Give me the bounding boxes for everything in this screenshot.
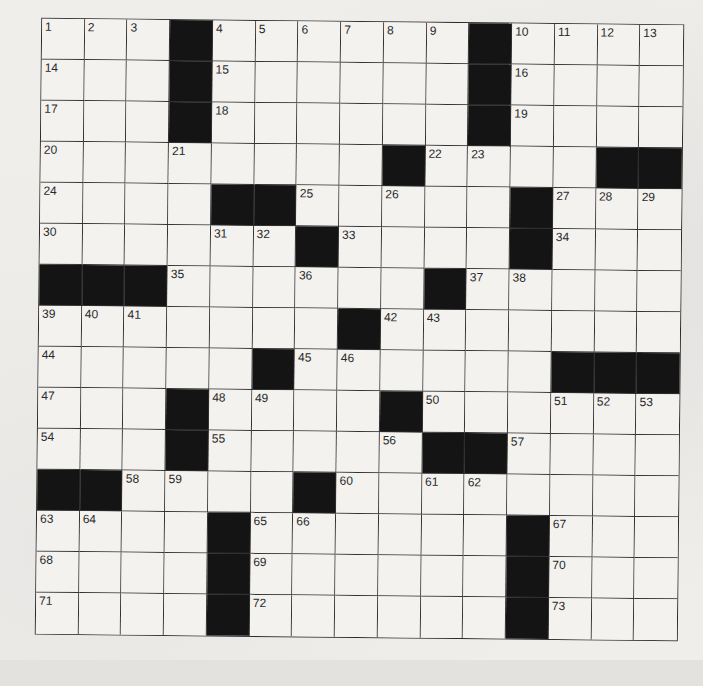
grid-cell[interactable] [83, 142, 126, 183]
grid-cell[interactable]: 22 [425, 146, 468, 187]
grid-cell[interactable] [509, 311, 552, 352]
grid-cell[interactable]: 64 [79, 511, 122, 552]
grid-cell[interactable] [640, 66, 683, 107]
grid-cell[interactable] [592, 557, 635, 598]
grid-cell[interactable] [211, 143, 254, 184]
grid-cell[interactable]: 20 [41, 142, 84, 183]
grid-cell[interactable] [123, 430, 166, 471]
grid-cell[interactable]: 63 [37, 511, 80, 552]
grid-cell[interactable] [79, 593, 122, 634]
grid-cell[interactable] [338, 268, 381, 309]
grid-cell[interactable]: 2 [85, 19, 128, 60]
grid-cell[interactable]: 59 [165, 471, 208, 512]
grid-cell[interactable] [593, 434, 636, 475]
grid-cell[interactable] [255, 62, 298, 103]
grid-cell[interactable]: 40 [82, 306, 125, 347]
grid-cell[interactable]: 61 [422, 474, 465, 515]
grid-cell[interactable]: 33 [339, 227, 382, 268]
grid-cell[interactable]: 15 [212, 61, 255, 102]
grid-cell[interactable]: 14 [41, 60, 84, 101]
grid-cell[interactable]: 55 [208, 430, 251, 471]
grid-cell[interactable]: 70 [549, 557, 592, 598]
grid-cell[interactable] [164, 594, 207, 635]
grid-cell[interactable]: 10 [512, 24, 555, 65]
grid-cell[interactable] [254, 144, 297, 185]
grid-cell[interactable] [294, 390, 337, 431]
grid-cell[interactable] [378, 555, 421, 596]
grid-cell[interactable] [550, 475, 593, 516]
grid-cell[interactable]: 19 [511, 106, 554, 147]
grid-cell[interactable]: 23 [468, 146, 511, 187]
grid-cell[interactable] [125, 225, 168, 266]
grid-cell[interactable] [381, 268, 424, 309]
grid-cell[interactable] [122, 512, 165, 553]
grid-cell[interactable] [293, 554, 336, 595]
grid-cell[interactable] [208, 471, 251, 512]
grid-cell[interactable] [466, 310, 509, 351]
grid-cell[interactable] [464, 515, 507, 556]
grid-cell[interactable] [379, 473, 422, 514]
grid-cell[interactable] [122, 553, 165, 594]
grid-cell[interactable] [209, 348, 252, 389]
grid-cell[interactable]: 27 [553, 188, 596, 229]
grid-cell[interactable]: 24 [40, 183, 83, 224]
grid-cell[interactable] [383, 104, 426, 145]
grid-cell[interactable] [596, 106, 639, 147]
grid-cell[interactable]: 36 [296, 267, 339, 308]
grid-cell[interactable] [421, 556, 464, 597]
grid-cell[interactable]: 18 [212, 102, 255, 143]
grid-cell[interactable] [126, 184, 169, 225]
grid-cell[interactable] [426, 64, 469, 105]
grid-cell[interactable] [297, 144, 340, 185]
grid-cell[interactable] [423, 351, 466, 392]
grid-cell[interactable]: 49 [252, 390, 295, 431]
grid-cell[interactable]: 29 [638, 189, 681, 230]
grid-cell[interactable] [210, 307, 253, 348]
grid-cell[interactable] [465, 392, 508, 433]
grid-cell[interactable]: 16 [511, 65, 554, 106]
grid-cell[interactable] [508, 352, 551, 393]
grid-cell[interactable]: 58 [123, 471, 166, 512]
grid-cell[interactable]: 51 [551, 393, 594, 434]
grid-cell[interactable] [340, 63, 383, 104]
grid-cell[interactable] [383, 63, 426, 104]
grid-cell[interactable] [593, 475, 636, 516]
grid-cell[interactable] [597, 65, 640, 106]
grid-cell[interactable] [253, 267, 296, 308]
grid-cell[interactable] [297, 103, 340, 144]
grid-cell[interactable] [637, 312, 680, 353]
grid-cell[interactable]: 30 [40, 224, 83, 265]
grid-cell[interactable] [554, 65, 597, 106]
grid-cell[interactable] [127, 61, 170, 102]
grid-cell[interactable] [508, 393, 551, 434]
grid-cell[interactable]: 47 [38, 388, 81, 429]
grid-cell[interactable]: 25 [296, 185, 339, 226]
grid-cell[interactable] [634, 558, 677, 599]
grid-cell[interactable] [83, 183, 126, 224]
grid-cell[interactable] [251, 431, 294, 472]
grid-cell[interactable]: 7 [341, 22, 384, 63]
grid-cell[interactable] [252, 308, 295, 349]
grid-cell[interactable] [168, 184, 211, 225]
grid-cell[interactable] [425, 187, 468, 228]
grid-cell[interactable]: 72 [249, 595, 292, 636]
grid-cell[interactable]: 35 [167, 266, 210, 307]
grid-cell[interactable]: 17 [41, 101, 84, 142]
grid-cell[interactable] [637, 271, 680, 312]
grid-cell[interactable]: 50 [423, 392, 466, 433]
grid-cell[interactable]: 73 [549, 598, 592, 639]
grid-cell[interactable]: 42 [381, 309, 424, 350]
grid-cell[interactable] [340, 145, 383, 186]
grid-cell[interactable]: 44 [38, 347, 81, 388]
grid-cell[interactable]: 5 [255, 21, 298, 62]
grid-cell[interactable]: 26 [382, 186, 425, 227]
grid-cell[interactable] [594, 311, 637, 352]
grid-cell[interactable] [636, 435, 679, 476]
grid-cell[interactable]: 39 [39, 306, 82, 347]
grid-cell[interactable] [424, 228, 467, 269]
grid-cell[interactable]: 4 [213, 20, 256, 61]
grid-cell[interactable]: 66 [293, 513, 336, 554]
grid-cell[interactable] [251, 472, 294, 513]
grid-cell[interactable] [255, 103, 298, 144]
grid-cell[interactable]: 57 [508, 434, 551, 475]
